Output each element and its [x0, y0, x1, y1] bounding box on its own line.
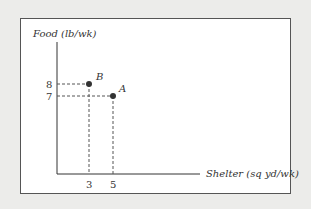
- point-b-label: B: [95, 71, 103, 82]
- x-tick-3: 3: [86, 179, 92, 190]
- point-a-label: A: [118, 83, 126, 94]
- point-a: [110, 93, 116, 99]
- scatter-chart: Food (lb/wk) Shelter (sq yd/wk) B A 8 7 …: [0, 0, 311, 209]
- x-axis-label: Shelter (sq yd/wk): [206, 168, 299, 179]
- y-axis-label: Food (lb/wk): [32, 28, 97, 39]
- point-b: [86, 81, 92, 87]
- x-tick-5: 5: [110, 179, 116, 190]
- y-tick-7: 7: [46, 91, 52, 102]
- y-tick-8: 8: [46, 79, 52, 90]
